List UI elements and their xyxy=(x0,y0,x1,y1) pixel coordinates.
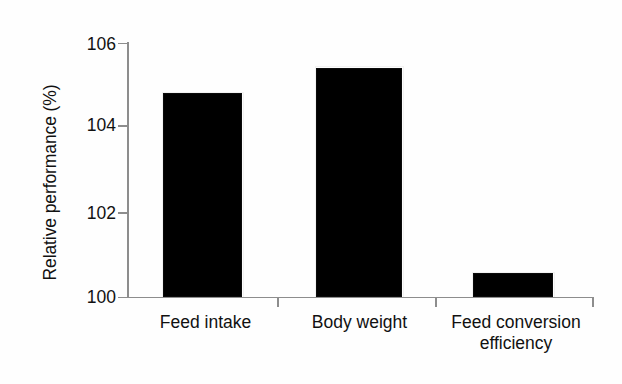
y-tick-label-106: 106 xyxy=(64,36,116,54)
y-axis-line xyxy=(127,42,129,298)
y-tick-mark-106 xyxy=(118,43,128,45)
y-tick-label-102: 102 xyxy=(64,205,116,223)
x-category-label-feed-conversion-efficiency: Feed conversion efficiency xyxy=(438,312,594,355)
x-category-label-line: Feed intake xyxy=(133,312,278,333)
x-tick-mark-2 xyxy=(435,297,437,307)
x-category-label-line: Feed conversion xyxy=(438,312,594,333)
x-category-label-line: efficiency xyxy=(438,333,594,354)
bar-feed-conversion-efficiency xyxy=(473,273,553,296)
y-tick-mark-102 xyxy=(118,212,128,214)
x-category-label-feed-intake: Feed intake xyxy=(133,312,278,333)
y-tick-mark-104 xyxy=(118,125,128,127)
x-tick-mark-1 xyxy=(277,297,279,307)
y-tick-label-100: 100 xyxy=(64,289,116,307)
y-tick-label-104: 104 xyxy=(64,117,116,135)
x-category-label-line: Body weight xyxy=(287,312,432,333)
y-tick-mark-100 xyxy=(118,297,128,299)
x-tick-mark-3 xyxy=(592,297,594,307)
x-category-label-body-weight: Body weight xyxy=(287,312,432,333)
y-axis-tick-labels: 106 104 102 100 xyxy=(58,0,116,384)
bar-feed-intake xyxy=(163,93,242,296)
bar-chart: Relative performance (%) 106 104 102 100… xyxy=(0,0,622,384)
bar-body-weight xyxy=(316,68,402,297)
x-axis-line xyxy=(127,297,593,299)
